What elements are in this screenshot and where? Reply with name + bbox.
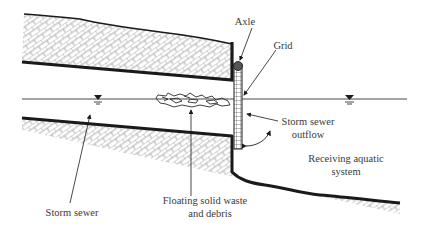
label-storm-sewer: Storm sewer (46, 207, 99, 218)
axle-icon (234, 62, 243, 71)
label-outflow-2: outflow (292, 129, 325, 140)
label-axle: Axle (235, 16, 256, 27)
swing-direction-arrow (246, 131, 270, 146)
label-debris-2: and debris (188, 208, 231, 219)
storm-sewer-diagram: Axle Grid Storm sewer outflow Receiving … (0, 0, 429, 228)
water-level-left-icon (94, 95, 102, 104)
grid-rack (234, 64, 242, 149)
floating-debris-icon (156, 93, 230, 107)
grid-leader (244, 50, 276, 95)
label-receiving-1: Receiving aquatic (308, 153, 384, 164)
label-grid: Grid (273, 40, 293, 51)
label-debris-1: Floating solid waste (163, 195, 248, 206)
outflow-leader (247, 114, 278, 121)
upper-ground-section (22, 14, 232, 80)
water-level-right-icon (345, 95, 354, 104)
axle-leader (240, 28, 252, 60)
label-receiving-2: system (331, 166, 360, 177)
label-outflow-1: Storm sewer (282, 116, 335, 127)
